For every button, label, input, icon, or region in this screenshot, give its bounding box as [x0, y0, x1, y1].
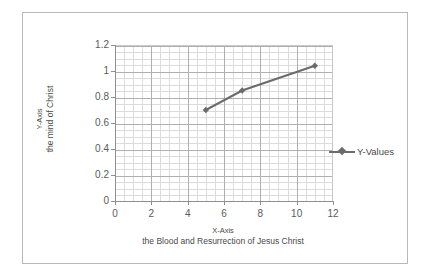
x-tick-mark [151, 201, 152, 205]
y-tick-label: 0.4 [63, 144, 109, 154]
x-tick-label: 2 [136, 209, 166, 219]
y-tick-label: 0.8 [63, 92, 109, 102]
x-axis-title-line1: X-Axis [73, 225, 373, 236]
y-tick-label: 0.2 [63, 170, 109, 180]
x-tick-mark [297, 201, 298, 205]
chart-legend: Y-Values [329, 146, 394, 157]
x-axis-title: X-Axis the Blood and Resurrection of Jes… [73, 225, 373, 247]
y-axis-title-line1: Y-Axis [35, 59, 45, 179]
x-tick-label: 6 [209, 209, 239, 219]
y-tick-label: 0.6 [63, 118, 109, 128]
x-tick-mark [115, 201, 116, 205]
x-tick-mark [333, 201, 334, 205]
x-axis-title-line2: the Blood and Resurrection of Jesus Chri… [73, 236, 373, 247]
chart-frame: 1.210.80.60.40.20 024681012 Y-Axis the m… [22, 12, 408, 264]
y-axis-title-line2: the mind of Christ [45, 59, 55, 179]
series-line [206, 66, 315, 110]
legend-entry-label: Y-Values [357, 146, 394, 157]
x-tick-label: 0 [100, 209, 130, 219]
x-tick-label: 4 [173, 209, 203, 219]
legend-marker-icon [329, 147, 355, 157]
x-tick-label: 10 [282, 209, 312, 219]
series-plot [115, 45, 333, 201]
x-tick-mark [224, 201, 225, 205]
data-point-marker [312, 63, 318, 69]
x-tick-label: 8 [245, 209, 275, 219]
y-axis-title: Y-Axis the mind of Christ [35, 59, 55, 179]
x-tick-mark [260, 201, 261, 205]
y-tick-label: 0 [63, 196, 109, 206]
x-tick-mark [188, 201, 189, 205]
y-tick-label: 1 [63, 66, 109, 76]
x-axis-tick-labels: 024681012 [115, 209, 335, 223]
y-tick-label: 1.2 [63, 40, 109, 50]
x-tick-label: 12 [318, 209, 348, 219]
